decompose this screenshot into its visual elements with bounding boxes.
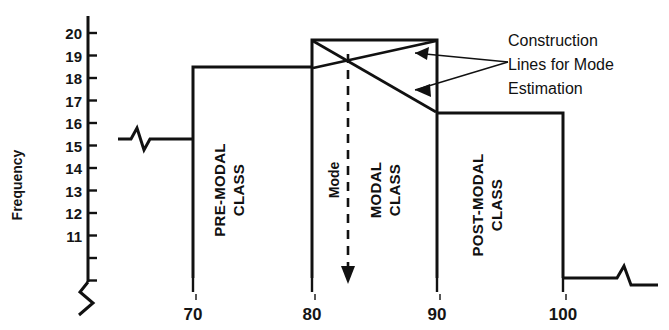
histogram-figure: 20 19 18 17 16 15 14 13 12 11 Frequency <box>0 0 669 330</box>
x-tick-label-70: 70 <box>184 305 203 324</box>
annotation-line2: Lines for Mode <box>508 56 614 73</box>
x-tick-label-100: 100 <box>549 305 577 324</box>
y-tick-label-18: 18 <box>65 70 82 87</box>
histogram-outline <box>118 40 658 285</box>
annotation-line3: Estimation <box>508 80 583 97</box>
mode-arrowhead <box>341 266 355 284</box>
y-axis-group: 20 19 18 17 16 15 14 13 12 11 Frequency <box>9 16 97 315</box>
y-tick-label-20: 20 <box>65 25 82 42</box>
annotation-line1: Construction <box>508 32 598 49</box>
x-tick-label-80: 80 <box>303 305 322 324</box>
mode-label: Mode <box>326 162 342 199</box>
class-label-modal-line1: MODAL <box>367 162 384 219</box>
construction-line-descending <box>313 41 436 112</box>
bar-pre-modal-class <box>193 67 312 139</box>
mode-marker-group: Mode <box>326 54 355 284</box>
class-label-pre-modal-line1: PRE-MODAL <box>211 143 228 237</box>
right-axis-break-segment <box>563 266 658 285</box>
y-tick-label-11: 11 <box>66 228 82 245</box>
x-axis-ticks <box>193 278 563 292</box>
construction-lines-group <box>313 41 436 112</box>
annotation-arrowhead-upper <box>415 47 429 60</box>
y-tick-label-16: 16 <box>65 115 82 132</box>
x-tick-label-90: 90 <box>428 305 447 324</box>
annotation-group: Construction Lines for Mode Estimation <box>415 32 614 97</box>
left-axis-break-segment <box>118 128 193 150</box>
y-tick-label-14: 14 <box>65 160 82 177</box>
histogram-svg: 20 19 18 17 16 15 14 13 12 11 Frequency <box>0 0 669 330</box>
y-axis-break-icon <box>79 282 93 315</box>
class-label-modal-line2: CLASS <box>386 164 403 216</box>
class-labels-group: PRE-MODAL CLASS MODAL CLASS POST-MODAL C… <box>211 143 505 256</box>
class-label-post-modal-line1: POST-MODAL <box>469 154 486 257</box>
class-label-pre-modal-line2: CLASS <box>230 164 247 216</box>
y-tick-label-13: 13 <box>65 183 82 200</box>
y-axis-title: Frequency <box>9 149 25 220</box>
y-tick-label-19: 19 <box>65 48 82 65</box>
y-tick-label-12: 12 <box>65 205 82 222</box>
annotation-leader-upper <box>415 53 508 62</box>
annotation-arrowhead-lower <box>415 84 431 97</box>
x-axis-subticks <box>196 294 566 300</box>
construction-line-ascending <box>313 41 436 68</box>
y-tick-label-15: 15 <box>65 138 82 155</box>
class-label-post-modal-line2: CLASS <box>488 179 505 231</box>
x-axis-group: 70 80 90 100 <box>184 278 578 324</box>
y-tick-label-17: 17 <box>65 93 82 110</box>
